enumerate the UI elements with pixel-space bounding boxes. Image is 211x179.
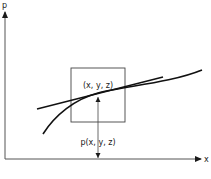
value-label: p(x, y, z) xyxy=(80,138,115,147)
point-label: (x, y, z) xyxy=(83,81,113,90)
diagram-canvas: p x (x, y, z) p(x, y, z) xyxy=(0,0,211,179)
y-axis-label: p xyxy=(2,1,7,10)
x-axis-label: x xyxy=(204,155,209,164)
